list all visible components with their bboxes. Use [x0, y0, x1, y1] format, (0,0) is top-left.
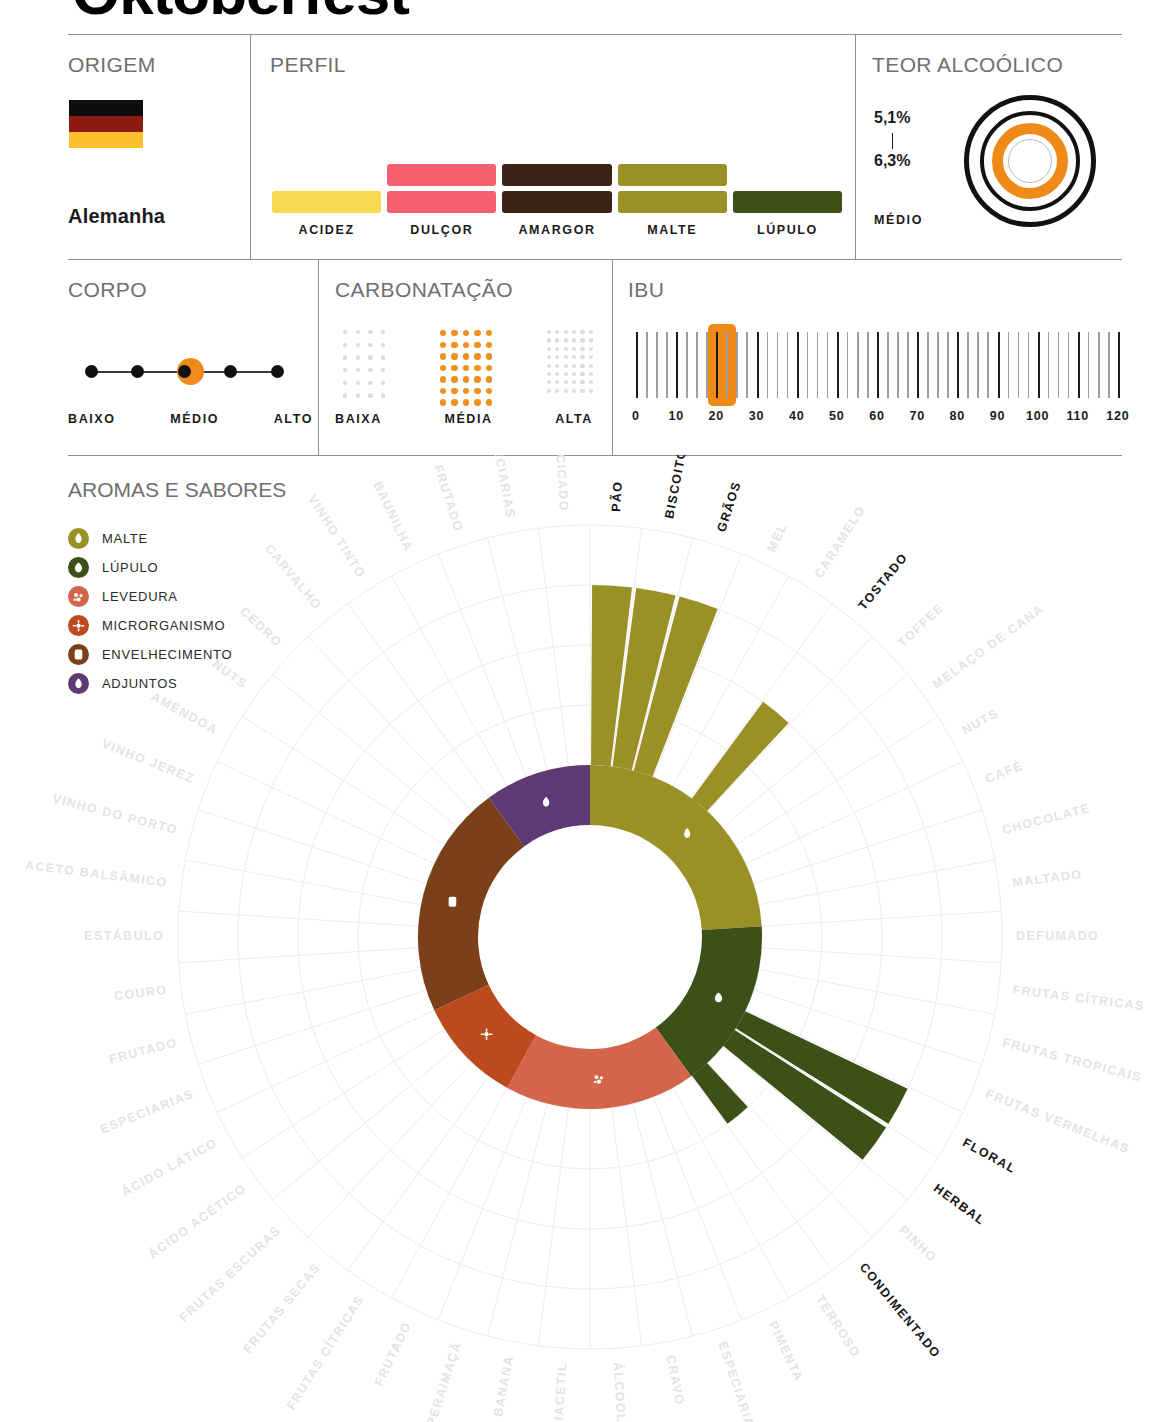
corpo-dot-5[interactable]	[271, 365, 284, 378]
wheel-label-vinho-jerez[interactable]: VINHO JEREZ	[100, 737, 197, 786]
wheel-label-diacetil[interactable]: DIACETIL	[551, 1362, 569, 1422]
ibu-tick	[957, 332, 959, 398]
wheel-label-p-o[interactable]: PÃO	[608, 480, 625, 512]
carbonatacao-grid-média[interactable]	[440, 330, 493, 396]
perfil-bar	[733, 191, 842, 213]
wheel-label-pera-ma-[interactable]: PERA/MAÇÃ	[423, 1339, 464, 1422]
wheel-label-aceto-bals-mico[interactable]: ACETO BALSÂMICO	[24, 857, 168, 890]
carbonatacao-grid-baixa[interactable]	[343, 330, 385, 396]
ibu-tick	[1038, 332, 1040, 398]
carbonatacao-dot	[555, 338, 559, 342]
origem-country: Alemanha	[68, 205, 165, 228]
wheel-label-mela-o-de-cana[interactable]: MELAÇO DE CANA	[930, 602, 1047, 692]
carbonatacao-dot	[368, 381, 372, 385]
ibu-tick	[987, 332, 989, 398]
carbonatacao-dot	[555, 347, 559, 351]
wheel-label-frutado[interactable]: FRUTADO	[372, 1319, 414, 1388]
wheel-label-mel[interactable]: MEL	[764, 521, 790, 555]
wheel-label-condimentado[interactable]: CONDIMENTADO	[857, 1260, 944, 1361]
wheel-segment-envelhecimento[interactable]	[418, 798, 524, 1010]
wheel-label-am-ndoa[interactable]: AMÊNDOA	[149, 688, 221, 737]
wheel-label-toffee[interactable]: TOFFEE	[895, 600, 946, 649]
wheel-label-pimenta[interactable]: PIMENTA	[766, 1319, 806, 1384]
wheel-label-frutas-c-tricas[interactable]: FRUTAS CÍTRICAS	[283, 1292, 367, 1412]
wheel-label-banana[interactable]: BANANA	[491, 1354, 516, 1418]
corpo-dot-4[interactable]	[224, 365, 237, 378]
wheel-label-frutas-secas[interactable]: FRUTAS SECAS	[241, 1260, 324, 1356]
carbonatacao-dot	[580, 389, 584, 393]
ibu-tick	[837, 332, 839, 398]
wheel-segment-levedura[interactable]	[507, 1028, 691, 1109]
carbonatacao-dot	[564, 347, 568, 351]
wheel-label-vinho-do-porto[interactable]: VINHO DO PORTO	[51, 792, 179, 838]
ibu-tick	[917, 332, 919, 398]
wheel-label-especiarias[interactable]: ESPECIARIAS	[98, 1087, 196, 1137]
wheel-label-chocolate[interactable]: CHOCOLATE	[1001, 801, 1092, 837]
wheel-label-cedro[interactable]: CEDRO	[237, 604, 284, 650]
carbonatacao-dot	[440, 353, 446, 359]
wheel-label-couro[interactable]: COURO	[113, 983, 168, 1004]
carbonatacao-dot	[451, 399, 457, 405]
corpo-dot-3[interactable]	[178, 365, 191, 378]
wheel-label-vinho-tinto[interactable]: VINHO TINTO	[305, 492, 368, 580]
perfil-bar	[502, 191, 611, 213]
wheel-label-defumado[interactable]: DEFUMADO	[1016, 929, 1099, 943]
ibu-tick	[998, 332, 1000, 398]
wheel-label-frutas-c-tricas[interactable]: FRUTAS CÍTRICAS	[1012, 982, 1146, 1014]
wheel-label-caramelo[interactable]: CARAMELO	[812, 503, 868, 581]
carbonatacao-dot	[463, 342, 469, 348]
ibu-tick	[887, 332, 889, 398]
wheel-label-biscoito[interactable]: BISCOITO	[662, 455, 689, 520]
corpo-dot-2[interactable]	[131, 365, 144, 378]
wheel-label-frutado[interactable]: FRUTADO	[108, 1035, 179, 1066]
wheel-label--cido-ac-tico[interactable]: ÁCIDO ACÉTICO	[145, 1180, 249, 1261]
carbonatacao-dot	[474, 399, 480, 405]
wheel-label-terroso[interactable]: TERROSO	[813, 1293, 863, 1361]
carbonatacao-dot	[381, 355, 385, 359]
carbonatacao-dot	[451, 353, 457, 359]
wheel-label-caf-[interactable]: CAFÉ	[983, 758, 1025, 786]
ibu-tick	[736, 332, 738, 398]
wheel-label-frutas-escuras[interactable]: FRUTAS ESCURAS	[177, 1223, 284, 1325]
wheel-label-frutas-vermelhas[interactable]: FRUTAS VERMELHAS	[984, 1087, 1132, 1157]
wheel-label-est-bulo[interactable]: ESTÁBULO	[84, 928, 164, 943]
header: Oktoberfest	[0, 0, 1164, 32]
wheel-spoke-tostado[interactable]	[692, 702, 789, 811]
wheel-label-pinho[interactable]: PINHO	[896, 1223, 939, 1265]
wheel-label--cido-l-tico[interactable]: ÁCIDO LÁTICO	[119, 1135, 220, 1200]
wheel-label-maltado[interactable]: MALTADO	[1012, 867, 1083, 890]
wheel-label-gr-os[interactable]: GRÃOS	[713, 479, 744, 534]
corpo-labels: BAIXOMÉDIOALTO	[68, 412, 313, 426]
carbonatacao-dot	[381, 393, 385, 397]
corpo-label: ALTO	[274, 412, 313, 426]
wheel-label-adocicado[interactable]: ADOCICADO	[551, 455, 571, 512]
carbonatacao-dot	[547, 347, 551, 351]
carbonatacao-grid-alta[interactable]	[547, 330, 593, 396]
carbonatacao-dot	[486, 342, 492, 348]
carbonatacao-dot	[343, 355, 347, 359]
wheel-segment-malte[interactable]	[590, 765, 762, 930]
wheel-label-floral[interactable]: FLORAL	[960, 1135, 1018, 1176]
wheel-label-baunilha[interactable]: BAUNILHA	[370, 479, 415, 554]
carbonatacao-dot	[589, 330, 593, 334]
ibu-tick	[787, 332, 789, 398]
ibu-tick-label: 100	[1026, 409, 1049, 423]
wheel-label-frutado[interactable]: FRUTADO	[431, 463, 466, 534]
wheel-label-especiarias[interactable]: ESPECIARIAS	[485, 455, 517, 520]
wheel-label-tostado[interactable]: TOSTADO	[856, 550, 911, 613]
wheel-label--lcool[interactable]: ÁLCOOL	[610, 1362, 629, 1422]
wheel-label-especiarias[interactable]: ESPECIARIAS	[716, 1340, 760, 1422]
wheel-label-cravo[interactable]: CRAVO	[664, 1354, 687, 1407]
corpo-dot-1[interactable]	[85, 365, 98, 378]
carbonatacao-dot	[474, 376, 480, 382]
carbonatacao-dot	[555, 372, 559, 376]
carbonatacao-dot	[572, 355, 576, 359]
carbonatacao-dot	[589, 380, 593, 384]
wheel-label-carvalho[interactable]: CARVALHO	[262, 542, 324, 613]
wheel-label-herbal[interactable]: HERBAL	[931, 1181, 988, 1228]
wheel-label-nuts[interactable]: NUTS	[210, 657, 250, 692]
ibu-tick	[686, 332, 688, 398]
wheel-label-frutas-tropicais[interactable]: FRUTAS TROPICAIS	[1001, 1035, 1143, 1084]
carbonatacao-dot	[580, 372, 584, 376]
wheel-label-nuts[interactable]: NUTS	[960, 706, 1001, 737]
